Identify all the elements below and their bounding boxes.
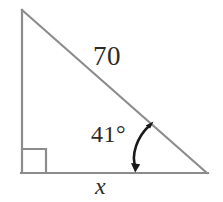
triangle-outline <box>21 10 208 173</box>
angle-measure-label: 41° <box>91 122 126 146</box>
angle-arrow <box>131 122 154 173</box>
base-length-label: x <box>95 174 106 198</box>
hypotenuse-line <box>22 10 207 173</box>
hypotenuse-length-label: 70 <box>93 43 121 70</box>
triangle-figure-svg <box>0 0 223 202</box>
arrowhead-lower <box>131 163 140 173</box>
right-angle-marker <box>22 149 46 173</box>
triangle-diagram: 70 41° x <box>0 0 223 202</box>
